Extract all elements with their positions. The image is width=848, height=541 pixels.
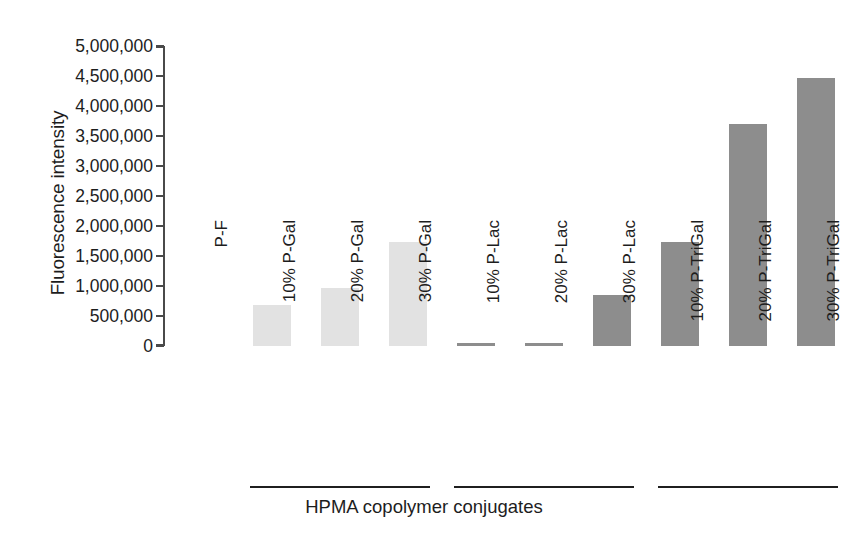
bar-chart: Fluorescence intensity 5,000,0004,500,00… (0, 0, 848, 541)
x-axis-title: HPMA copolymer conjugates (0, 496, 848, 518)
group-rule-p-lac (454, 486, 634, 488)
group-rule-p-gal (250, 486, 430, 488)
x-axis-group-rules (0, 0, 848, 541)
group-rule-p-trigal (658, 486, 838, 488)
